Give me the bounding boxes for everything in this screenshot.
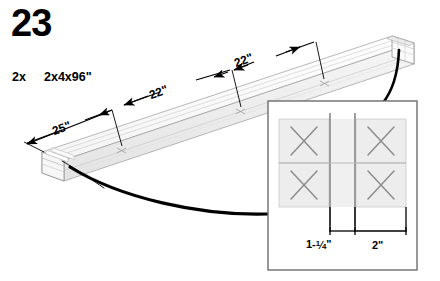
fraction-glyph: 1⁄4: [316, 239, 326, 251]
inset-detail: [268, 101, 417, 270]
diagram-canvas: 23 2x2x4x96" 25" 22" 22" 1-1⁄4" 2": [0, 0, 440, 281]
part-description: 2x4x96": [44, 70, 92, 84]
fraction-numerator: 1: [316, 239, 320, 248]
inset-dim-suffix: ": [326, 238, 331, 250]
inset-dimension-label-1-1-4: 1-1⁄4": [306, 238, 331, 251]
parts-list-row: 2x2x4x96": [12, 70, 92, 84]
leader-curve-left: [70, 167, 268, 214]
inset-dimension-label-2: 2": [372, 239, 383, 251]
step-number: 23: [11, 4, 51, 42]
part-quantity: 2x: [12, 70, 44, 84]
inset-dim-prefix: 1-: [306, 238, 316, 250]
